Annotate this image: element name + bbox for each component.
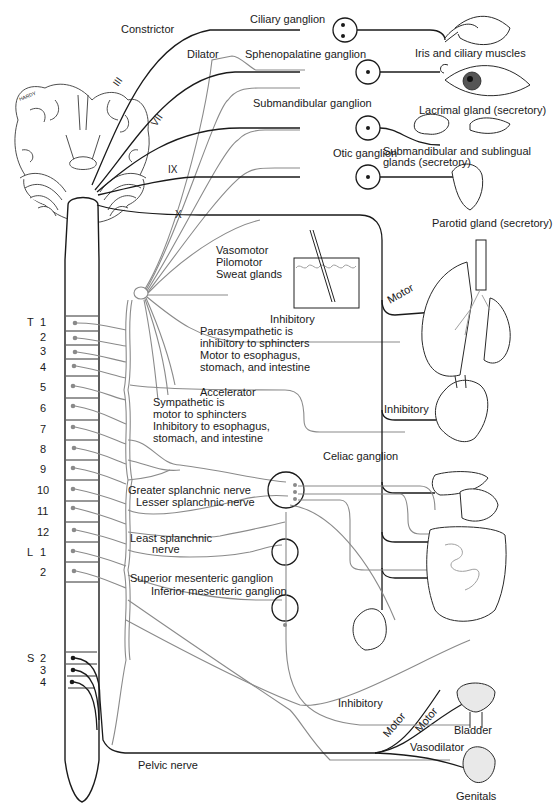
- label-sphenopalatine-ganglion: Sphenopalatine ganglion: [245, 48, 366, 60]
- label-greater-splanchnic: Greater splanchnic nerve: [128, 484, 251, 496]
- svg-text:Inhibitory to esophagus,: Inhibitory to esophagus,: [153, 420, 270, 432]
- label-motor-lung: Motor: [385, 281, 416, 306]
- svg-text:8: 8: [40, 443, 46, 455]
- label-dilator: Dilator: [187, 48, 219, 60]
- heart-illustration: [435, 375, 487, 442]
- label-genitals: Genitals: [456, 790, 497, 802]
- svg-text:Motor to esophagus,: Motor to esophagus,: [200, 349, 300, 361]
- inferior-mesenteric-ganglion: [272, 595, 298, 621]
- spinal-cord: [65, 198, 99, 803]
- label-vasomotor: Vasomotor: [216, 244, 269, 256]
- digestive-organs-illustration: [427, 472, 506, 622]
- label-cn-x: X: [175, 209, 182, 220]
- svg-text:1: 1: [40, 316, 46, 328]
- ans-diagram: HARDY: [0, 0, 557, 807]
- label-iris: Iris and ciliary muscles: [415, 47, 526, 59]
- svg-text:2: 2: [40, 566, 46, 578]
- kidney-illustration: [353, 609, 386, 650]
- label-motor-2: Motor: [412, 705, 439, 735]
- svg-text:7: 7: [40, 423, 46, 435]
- svg-text:inhibitory to sphincters: inhibitory to sphincters: [200, 337, 310, 349]
- label-ciliary-ganglion: Ciliary ganglion: [250, 13, 325, 25]
- label-lesser-splanchnic: Lesser splanchnic nerve: [136, 496, 255, 508]
- label-superior-mesenteric: Superior mesenteric ganglion: [130, 572, 273, 584]
- label-submandibular-ganglion: Submandibular ganglion: [253, 97, 372, 109]
- svg-text:4: 4: [40, 361, 46, 373]
- superior-mesenteric-ganglion: [272, 539, 298, 565]
- label-inhibitory-pelvic: Inhibitory: [338, 697, 383, 709]
- svg-text:3: 3: [40, 345, 46, 357]
- label-pelvic-nerve: Pelvic nerve: [138, 759, 198, 771]
- svg-text:stomach, and intestine: stomach, and intestine: [153, 432, 263, 444]
- lumbar-letter: L: [27, 546, 33, 558]
- svg-text:9: 9: [40, 463, 46, 475]
- label-parotid: Parotid gland (secretory): [432, 217, 552, 229]
- bladder-illustration: [457, 683, 495, 728]
- svg-text:12: 12: [37, 526, 49, 538]
- svg-text:5: 5: [40, 381, 46, 393]
- svg-text:2: 2: [40, 331, 46, 343]
- label-parasympathetic-note: Parasympathetic is: [200, 325, 293, 337]
- label-celiac-ganglion: Celiac ganglion: [323, 450, 398, 462]
- lungs-illustration: [422, 240, 510, 376]
- genitals-illustration: [463, 747, 495, 783]
- thoracic-letter: T: [27, 316, 34, 328]
- ciliary-ganglion: [333, 18, 357, 42]
- label-sympathetic-note: Sympathetic is: [153, 396, 225, 408]
- skin-cross-section-illustration: [294, 230, 359, 308]
- label-cn-iii: III: [111, 75, 125, 88]
- label-inferior-mesenteric: Inferior mesenteric ganglion: [151, 585, 287, 597]
- label-cn-ix: IX: [168, 164, 178, 175]
- svg-text:2: 2: [40, 652, 46, 664]
- parasympathetic-fibers: [74, 30, 470, 768]
- svg-text:glands (secretory): glands (secretory): [383, 156, 471, 168]
- svg-text:11: 11: [37, 505, 48, 517]
- label-inhibitory-lung: Inhibitory: [270, 313, 315, 325]
- eye-illustration: [445, 16, 510, 44]
- sacral-letter: S: [27, 652, 34, 664]
- label-vasodilator: Vasodilator: [410, 741, 465, 753]
- svg-text:stomach, and intestine: stomach, and intestine: [200, 361, 310, 373]
- lacrimal-eye-illustration: [441, 64, 530, 95]
- svg-text:6: 6: [40, 402, 46, 414]
- label-lacrimal: Lacrimal gland (secretory): [419, 104, 546, 116]
- segment-labels: T 1 2 3 4 5 6 7 8 9 10 11 12 L 1 2 S 2 3…: [27, 316, 49, 688]
- svg-text:nerve: nerve: [152, 543, 180, 555]
- celiac-ganglion: [268, 472, 304, 508]
- label-inhibitory-heart: Inhibitory: [384, 403, 429, 415]
- svg-text:motor to sphincters: motor to sphincters: [153, 408, 247, 420]
- svg-text:10: 10: [37, 484, 49, 496]
- svg-text:Pilomotor: Pilomotor: [216, 256, 263, 268]
- svg-text:4: 4: [40, 676, 46, 688]
- svg-text:3: 3: [40, 664, 46, 676]
- label-bladder: Bladder: [454, 724, 492, 736]
- svg-text:Sweat glands: Sweat glands: [216, 268, 283, 280]
- label-constrictor: Constrictor: [121, 23, 175, 35]
- svg-text:1: 1: [40, 546, 46, 558]
- label-cn-vii: VII: [149, 112, 165, 128]
